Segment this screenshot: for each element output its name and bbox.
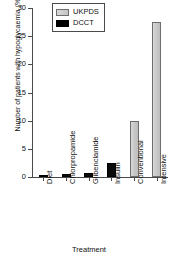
x-tick-chlorpropamide	[66, 178, 67, 181]
y-tick-label: 30	[18, 4, 26, 12]
y-tick-label: 20	[18, 60, 26, 68]
x-label-insulin: Insulin	[114, 162, 122, 184]
legend-swatch-dcct	[56, 20, 69, 27]
x-label-conventional: Conventional	[137, 140, 145, 184]
y-axis-line	[32, 8, 33, 178]
x-tick-glibenclamide	[89, 178, 90, 181]
y-tick-label: 15	[18, 89, 26, 97]
legend-item-ukpds: UKPDS	[56, 7, 99, 17]
y-tick-mark	[28, 36, 32, 37]
x-label-chlorpropamide: Chlorpropamide	[69, 131, 77, 184]
y-tick-label: 0	[22, 173, 26, 181]
x-label-glibenclamide: Glibenclamide	[92, 136, 100, 184]
y-tick-label: 10	[18, 117, 26, 125]
y-tick-mark	[28, 149, 32, 150]
y-tick-label: 5	[22, 145, 26, 153]
legend: UKPDS DCCT	[52, 3, 105, 32]
hypoglycaemia-bar-chart: Number of patients with hypoglycaemia (%…	[0, 0, 178, 260]
x-label-intensive: Intensive	[160, 154, 168, 184]
y-tick-mark	[28, 64, 32, 65]
x-tick-conventional	[134, 178, 135, 181]
x-label-diet: Diet	[46, 171, 54, 184]
legend-item-dcct: DCCT	[56, 18, 99, 28]
x-tick-intensive	[157, 178, 158, 181]
y-tick-label: 25	[18, 32, 26, 40]
y-tick-mark	[28, 8, 32, 9]
legend-label-ukpds: UKPDS	[73, 8, 99, 16]
legend-label-dcct: DCCT	[73, 19, 94, 27]
x-axis-title: Treatment	[0, 246, 178, 254]
y-tick-mark	[28, 177, 32, 178]
y-tick-mark	[28, 93, 32, 94]
legend-swatch-ukpds	[56, 9, 69, 16]
y-tick-mark	[28, 121, 32, 122]
plot-area: 051015202530 DietChlorpropamideGlibencla…	[32, 8, 168, 178]
